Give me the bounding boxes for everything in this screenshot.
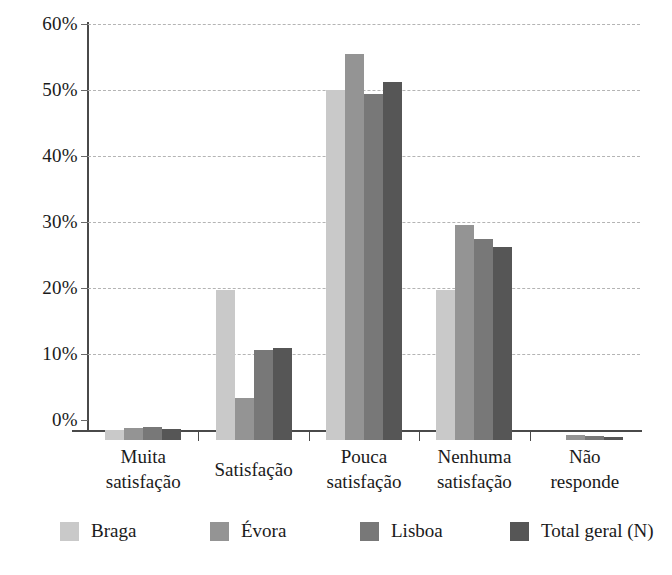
legend-label: Lisboa [391,520,443,542]
y-axis-tick-label: 20% [42,277,78,299]
bar [566,435,585,440]
x-axis-tick-mark [309,430,310,441]
bar [162,429,181,440]
bar [105,430,124,440]
legend-swatch-icon [60,522,79,541]
x-axis-category-label: Nãoresponde [520,444,650,494]
y-axis-tick-label: 10% [42,343,78,365]
x-axis-tick-mark [198,430,199,441]
bar-chart: 0%10%20%30%40%50%60% MuitasatisfaçãoSati… [0,0,672,575]
bar [455,225,474,440]
bar-group [326,20,402,430]
bar [143,427,162,440]
plot-area [88,20,640,430]
bar [474,239,493,440]
bar [585,436,604,440]
bar [383,82,402,440]
x-axis-category-label-line: Não [520,444,650,469]
bar [216,290,235,440]
bar [273,348,292,440]
x-axis-tick-mark [530,430,531,441]
y-axis-tick-label: 40% [42,145,78,167]
bar-group [436,20,512,430]
bar-group [547,20,623,430]
y-axis-tick-mark [81,288,88,289]
legend-swatch-icon [510,522,529,541]
y-axis-tick-mark [81,90,88,91]
legend-swatch-icon [210,522,229,541]
legend-label: Total geral (N) [541,520,654,542]
x-axis-tick-mark [419,430,420,441]
y-axis-tick-mark [81,420,88,421]
bar-group [216,20,292,430]
legend-item-total-geral-n[interactable]: Total geral (N) [510,520,660,542]
legend-label: Braga [91,520,136,542]
bar [124,428,143,440]
y-axis-tick-mark [81,222,88,223]
y-axis-tick-mark [81,156,88,157]
bar-group [105,20,181,430]
bar [235,398,254,440]
legend-item-lisboa[interactable]: Lisboa [360,520,510,542]
legend-item-vora[interactable]: Évora [210,520,360,542]
bar [326,90,345,440]
legend-label: Évora [241,520,286,542]
bar [254,350,273,440]
bar [345,54,364,440]
y-axis-tick-mark [81,354,88,355]
legend-item-braga[interactable]: Braga [60,520,210,542]
bar [604,437,623,440]
bar [436,290,455,440]
chart-legend: BragaÉvoraLisboaTotal geral (N) [60,520,660,542]
y-axis-tick-label: 30% [42,211,78,233]
legend-swatch-icon [360,522,379,541]
bar [364,94,383,441]
bar [493,247,512,440]
x-axis-category-label-line: responde [520,469,650,494]
y-axis-tick-label: 60% [42,13,78,35]
y-axis-tick-label: 50% [42,79,78,101]
y-axis-tick-label: 0% [52,409,78,431]
y-axis-tick-mark [81,24,88,25]
